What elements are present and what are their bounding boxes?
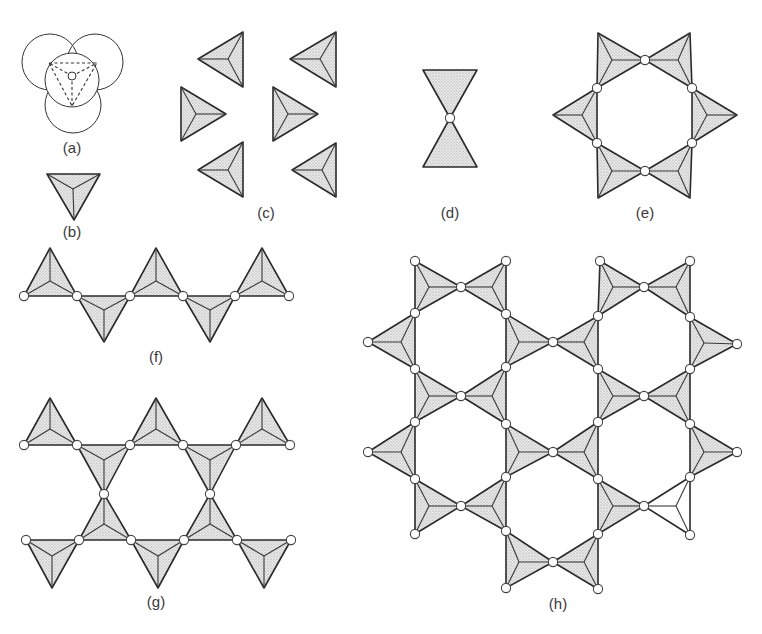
oxygen-atom [640,166,649,175]
oxygen-atom [456,501,465,510]
oxygen-atom [548,557,557,566]
tetrahedron-c [181,87,226,141]
tetrahedron-g [237,540,291,588]
tetrahedron-h [553,422,598,479]
oxygen-atom [286,535,295,544]
tetrahedron [423,70,477,118]
oxygen-atom [685,419,694,428]
oxygen-atom [21,535,30,544]
tetrahedron-h [644,369,690,424]
tetrahedron-h [644,261,690,317]
tetrahedron-h [598,479,644,534]
tetrahedron-f [77,296,130,342]
oxygen-atom [640,55,649,64]
label-e: (e) [636,204,654,221]
oxygen-atom [126,535,135,544]
panel-a-sphere-packing [22,34,123,133]
tetrahedron-e [553,88,597,143]
oxygen-atom [501,419,510,428]
oxygen-atom [178,291,187,300]
tetrahedron-h [598,261,644,316]
tetrahedron-e [597,33,645,88]
tetrahedra-layer [24,32,737,589]
oxygen-atom [639,501,648,510]
oxygen-atom [125,440,134,449]
oxygen-atom [501,362,510,371]
label-b: (b) [63,223,81,240]
tetrahedron-e [645,143,692,198]
oxygen-atom [732,339,741,348]
oxygen-atom [685,472,694,481]
oxygen-atom [639,282,648,291]
tetrahedron-h [506,314,553,367]
tetrahedron-h [415,369,461,422]
tetrahedron-h [415,479,461,534]
oxygen-atom [501,583,510,592]
oxygen-atom [19,440,28,449]
label-c: (c) [257,204,275,221]
oxygen-atom [593,584,602,593]
tetrahedron-g [26,540,79,588]
oxygen-atom [548,337,557,346]
tetrahedron-c [198,32,243,87]
oxygen-atom [179,535,188,544]
oxygen-atom [125,291,134,300]
oxygen-atom [592,138,601,147]
oxygen-atom [285,440,294,449]
tetrahedron-c [292,143,336,197]
oxygen-atom [593,311,602,320]
oxygen-atom [593,417,602,426]
tetrahedron-e [597,143,645,198]
oxygen-atom [501,256,510,265]
tetrahedron-f [183,296,235,342]
oxygen-atom [685,312,694,321]
oxygen-atom [410,364,419,373]
tetrahedron-g [79,494,131,540]
oxygen-atom [230,291,239,300]
label-f: (f) [149,348,163,365]
oxygen-atom [639,391,648,400]
oxygen-atom [548,447,557,456]
oxygen-atom [205,489,214,498]
tetrahedron-h [368,422,415,479]
tetrahedron-h [553,316,598,369]
tetrahedron-g [184,494,237,540]
tetrahedron-f [24,248,77,296]
tetrahedron-h [461,261,506,314]
oxygen-atom [456,391,465,400]
oxygen-atom [732,447,741,456]
tetrahedron-g [77,445,130,494]
tetrahedron-f [235,248,289,296]
label-a: (a) [63,139,81,156]
oxygen-atom [501,526,510,535]
oxygen-atom [410,417,419,426]
oxygen-atom [687,138,696,147]
oxygen-atom [363,447,372,456]
label-d: (d) [441,204,459,221]
tetrahedron-h [598,369,644,422]
oxygen-atom [593,529,602,538]
oxygen-atom [685,364,694,373]
oxygen-atom [19,291,28,300]
oxygen-atom [593,474,602,483]
tetrahedron-g [24,398,77,445]
tetrahedron-c [273,87,318,141]
oxygen-atom [74,535,83,544]
oxygen-atom [501,309,510,318]
oxygen-atom [456,282,465,291]
oxygen-atom [410,256,419,265]
tetrahedron-b [47,174,100,220]
label-h: (h) [549,595,567,612]
tetrahedron-h [461,367,506,424]
tetrahedron-h [690,317,737,369]
oxygen-atom [687,83,696,92]
tetrahedron-h [415,261,461,313]
oxygen-atom [685,530,694,539]
oxygen-atom [592,83,601,92]
tetrahedron-h [690,424,737,477]
tetrahedron-f [130,248,183,296]
oxygen-atom [231,440,240,449]
oxygen-atom [410,474,419,483]
tetrahedron-h [506,424,553,477]
tetrahedron-g [183,445,236,494]
